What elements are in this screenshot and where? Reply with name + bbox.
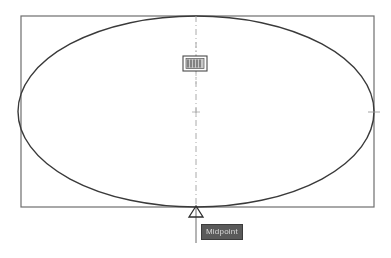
osnap-tooltip: Midpoint [201,224,243,240]
cad-geometry-svg [0,0,391,258]
rectangle-shape[interactable] [21,16,374,207]
cad-drawing-canvas[interactable]: Midpoint [0,0,391,258]
pickbox-icon[interactable] [183,56,207,71]
crosshair-icon [192,108,200,116]
